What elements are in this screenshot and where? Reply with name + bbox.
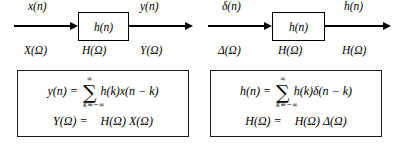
input-freq-label: Δ(Ω) [218,44,241,56]
convolution-equation: h(n) = ∞ ∑ k=−∞ h(k)δ(n − k) [211,84,381,100]
input-arrow-shaft [208,25,265,27]
system-block: h(n) [272,12,325,41]
input-freq-label: X(Ω) [24,44,47,56]
summation-lower-limit: k=−∞ [276,102,290,109]
equation-rhs: h(k)δ(n − k) [294,84,352,98]
frequency-equation: H(Ω) = H(Ω) Δ(Ω) [211,114,381,129]
output-time-label: y(n) [140,0,159,12]
summation-operator: ∞ ∑ k=−∞ [83,85,97,100]
output-arrowhead-icon [185,22,193,30]
summation-operator: ∞ ∑ k=−∞ [276,85,290,100]
convolution-equation: y(n) = ∞ ∑ k=−∞ h(k)x(n − k) [18,84,188,100]
input-arrowhead-icon [264,22,272,30]
equation-box-general-input: y(n) = ∞ ∑ k=−∞ h(k)x(n − k) Y(Ω) = H(Ω)… [17,70,189,137]
summation-upper-limit: ∞ [276,76,290,83]
equation-rhs: h(k)x(n − k) [100,84,158,98]
equation-lhs: y(n) = [47,84,77,98]
input-time-label: δ(n) [222,0,241,12]
signal-flow-figure: x(n) y(n) h(n) X(Ω) H(Ω) Y(Ω) δ(n) h(n) … [0,0,399,145]
summation-sigma-icon: ∑ [276,85,290,100]
output-arrowhead-icon [383,22,391,30]
output-freq-label: H(Ω) [342,44,366,56]
block-diagram-impulse-input: δ(n) h(n) h(n) Δ(Ω) H(Ω) H(Ω) [200,0,399,66]
summation-upper-limit: ∞ [83,76,97,83]
system-block: h(n) [78,12,129,41]
frequency-equation: Y(Ω) = H(Ω) X(Ω) [18,114,188,129]
equation-box-impulse-input: h(n) = ∞ ∑ k=−∞ h(k)δ(n − k) H(Ω) = H(Ω)… [210,70,382,137]
block-diagram-general-input: x(n) y(n) h(n) X(Ω) H(Ω) Y(Ω) [0,0,199,66]
summation-sigma-icon: ∑ [83,85,97,100]
block-freq-label: H(Ω) [278,44,302,56]
equation-lhs: h(n) = [240,84,271,98]
frequency-lhs: Y(Ω) = [53,114,87,128]
frequency-lhs: H(Ω) = [245,114,281,128]
output-time-label: h(n) [344,0,363,12]
frequency-rhs: H(Ω) X(Ω) [101,114,153,128]
output-arrow-shaft [129,25,186,27]
input-arrow-shaft [14,25,72,27]
summation-lower-limit: k=−∞ [83,102,97,109]
block-freq-label: H(Ω) [82,44,106,56]
output-arrow-shaft [325,25,384,27]
input-time-label: x(n) [28,0,47,12]
frequency-rhs: H(Ω) Δ(Ω) [295,114,347,128]
output-freq-label: Y(Ω) [140,44,162,56]
input-arrowhead-icon [70,22,78,30]
